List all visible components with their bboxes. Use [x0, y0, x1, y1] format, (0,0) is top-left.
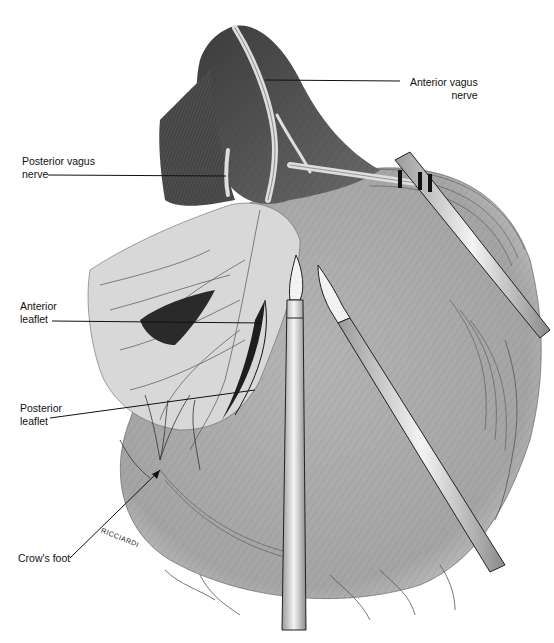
label-posterior-vagus-nerve: Posterior vagus nerve [22, 155, 95, 181]
label-line: Posterior [20, 402, 62, 415]
label-line: nerve [410, 89, 478, 102]
label-line: leaflet [20, 415, 62, 428]
label-anterior-vagus-nerve: Anterior vagus nerve [410, 76, 478, 102]
label-line: Anterior vagus [410, 76, 478, 89]
label-line: leaflet [20, 313, 57, 326]
label-anterior-leaflet: Anterior leaflet [20, 300, 57, 326]
label-line: nerve [22, 168, 95, 181]
label-crows-foot: Crow's foot [18, 552, 70, 565]
label-line: Anterior [20, 300, 57, 313]
label-line: Crow's foot [18, 552, 70, 565]
label-posterior-leaflet: Posterior leaflet [20, 402, 62, 428]
anatomy-illustration: Anterior vagus nerve Posterior vagus ner… [0, 0, 554, 643]
label-line: Posterior vagus [22, 155, 95, 168]
